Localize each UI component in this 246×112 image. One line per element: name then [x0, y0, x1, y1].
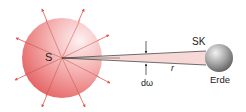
earth-sphere — [205, 44, 233, 72]
spacecraft-label: SK — [192, 37, 205, 47]
solar-radiation-diagram — [0, 0, 246, 112]
earth-label: Erde — [210, 75, 230, 85]
solid-angle-label: dω — [141, 79, 153, 88]
sun-label: S — [45, 52, 52, 63]
distance-label: r — [171, 64, 174, 73]
